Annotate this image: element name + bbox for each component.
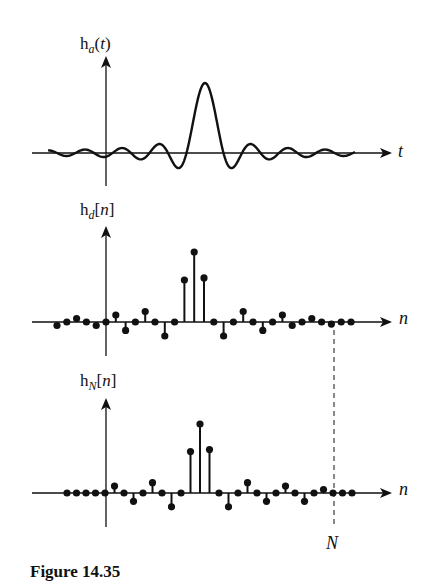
stem-dot [151,318,158,325]
stem-dot [63,489,70,496]
stem-dot [210,318,217,325]
stem-dot [181,276,188,283]
stem-dot [158,489,165,496]
stem-dot [230,318,237,325]
stem-dot [339,489,346,496]
stem-dot [111,483,118,490]
stem-dot [282,483,289,490]
stem-dot [253,489,260,496]
xlabel-truncated: n [399,479,408,500]
ylabel-arg: n [102,371,111,390]
stem-dot [73,489,80,496]
stem-dot [102,318,109,325]
stem-dot [53,322,60,329]
figure-caption: Figure 14.35 [30,562,120,582]
stem-dot [132,318,139,325]
stem-dot [220,332,227,339]
stem-dot [168,503,175,510]
ylabel-base: h [80,34,89,53]
stem-dot [328,321,335,328]
stem-dot [177,489,184,496]
ylabel-close: ) [105,34,111,53]
stem-dot [112,311,119,318]
ylabel-sub: N [89,379,97,393]
stem-dot [120,489,127,496]
ylabel-close: ] [111,371,117,390]
stem-dot [310,489,317,496]
stem-dot [272,489,279,496]
stem-dot [149,479,156,486]
stem-dot [249,318,256,325]
panel-discrete [32,228,390,356]
stem-dot [320,486,327,493]
stem-dot [347,318,354,325]
stem-series [53,248,354,339]
stem-dot [338,318,345,325]
stem-dot [82,489,89,496]
stem-dot [318,318,325,325]
stem-dot [101,489,108,496]
stem-dot [269,318,276,325]
stem-dot [206,446,213,453]
stem-dot [83,318,90,325]
stem-dot [234,489,241,496]
stem-dot [122,327,129,334]
truncation-label: N [326,533,338,554]
stem-dot [301,498,308,505]
stem-dot [263,498,270,505]
stem-dot [161,332,168,339]
ylabel-sub: a [89,42,95,56]
stem-dot [171,318,178,325]
stem-series [63,420,355,510]
xlabel-analog: t [398,141,403,162]
stem-dot [329,489,336,496]
stem-dot [142,308,149,315]
ylabel-discrete: hd[n] [80,200,114,220]
stem-dot [191,248,198,255]
stem-dot [73,315,80,322]
ylabel-arg: n [100,200,109,219]
stem-dot [291,489,298,496]
panel-analog [32,58,390,186]
stem-dot [289,322,296,329]
stem-dot [240,308,247,315]
stem-dot [298,318,305,325]
ylabel-truncated: hN[n] [80,371,116,391]
stem-dot [93,322,100,329]
stem-dot [225,503,232,510]
stem-dot [187,448,194,455]
stem-dot [215,489,222,496]
panel-truncated [32,400,390,527]
stem-dot [244,479,251,486]
sinc-curve [48,83,355,168]
stem-dot [130,498,137,505]
ylabel-sub: d [89,208,95,222]
stem-dot [348,489,355,496]
stem-dot [279,311,286,318]
ylabel-base: h [80,371,89,390]
stem-dot [92,489,99,496]
stem-dot [63,318,70,325]
ylabel-base: h [80,200,89,219]
stem-dot [139,489,146,496]
xlabel-discrete: n [399,308,408,329]
stem-dot [259,327,266,334]
stem-dot [308,315,315,322]
stem-dot [196,420,203,427]
ylabel-analog: ha(t) [80,34,111,54]
stem-dot [200,274,207,281]
ylabel-close: ] [109,200,115,219]
